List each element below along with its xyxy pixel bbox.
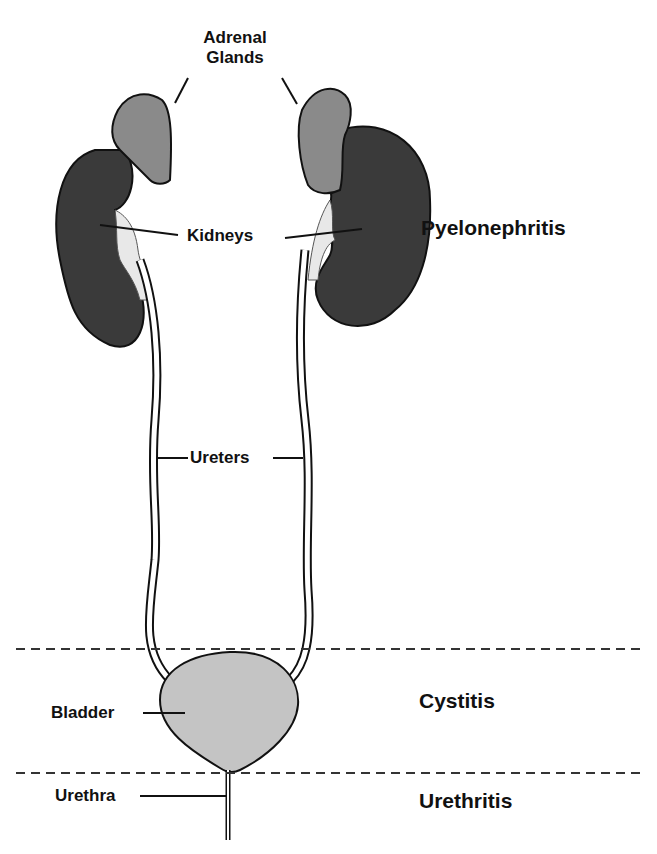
ureters-label: Ureters (190, 448, 250, 468)
left-ureter-inner (140, 260, 170, 680)
cystitis-label: Cystitis (419, 689, 495, 713)
adrenal-label-line2: Glands (190, 48, 280, 68)
adrenal-leader-right (282, 78, 297, 104)
kidneys-label: Kidneys (187, 226, 253, 246)
urethra-label: Urethra (55, 786, 115, 806)
anatomy-illustration (0, 0, 657, 854)
bladder-label: Bladder (51, 703, 114, 723)
adrenal-glands-label: Adrenal Glands (190, 28, 280, 68)
pyelonephritis-label: Pyelonephritis (421, 216, 566, 240)
adrenal-leader-left (175, 78, 188, 103)
adrenal-label-line1: Adrenal (190, 28, 280, 48)
urinary-tract-diagram: Adrenal Glands Kidneys Ureters Bladder U… (0, 0, 657, 854)
urethritis-label: Urethritis (419, 789, 512, 813)
